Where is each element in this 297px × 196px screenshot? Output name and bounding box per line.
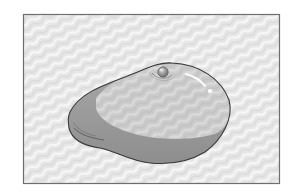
illustration-frame — [0, 0, 297, 196]
implant-illustration — [0, 0, 297, 196]
highlight-spot — [208, 89, 213, 93]
